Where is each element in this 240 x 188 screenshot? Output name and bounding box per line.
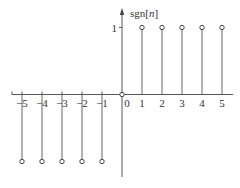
x-tick-label: 4 (199, 97, 205, 109)
x-tick-label: 3 (179, 97, 185, 109)
x-tick-label: −4 (36, 97, 48, 109)
y-axis-arrow-icon (120, 8, 124, 15)
x-tick-label: 2 (159, 97, 165, 109)
y-axis-label: sgn[n] (130, 7, 158, 19)
stem-marker (200, 25, 204, 29)
stem-marker (40, 159, 44, 163)
stem-marker (80, 159, 84, 163)
stem-marker (20, 159, 24, 163)
x-tick-label: 0 (124, 97, 130, 109)
y-tick-label: 1 (112, 22, 118, 34)
x-tick-label: −2 (76, 97, 88, 109)
stem-marker (220, 25, 224, 29)
x-tick-label: −1 (96, 97, 108, 109)
x-tick-label: −5 (16, 97, 28, 109)
stem-marker (140, 25, 144, 29)
stem-marker (100, 159, 104, 163)
stem-marker (160, 25, 164, 29)
x-tick-label: −3 (56, 97, 68, 109)
signum-stem-plot: −5−4−3−2−10123451 sgn[n] (0, 0, 240, 188)
x-tick-label: 1 (139, 97, 145, 109)
stem-marker (60, 159, 64, 163)
stem-marker (180, 25, 184, 29)
x-tick-label: 5 (219, 97, 225, 109)
